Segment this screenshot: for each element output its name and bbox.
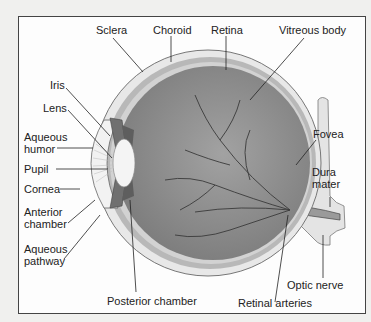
label-fovea: Fovea: [313, 128, 344, 140]
lens: [113, 139, 135, 187]
label-aqueous-pathway-line2: pathway: [24, 255, 65, 267]
label-anterior-chamber-line1: Anterior: [24, 206, 63, 218]
label-cornea: Cornea: [24, 183, 60, 195]
label-sclera: Sclera: [96, 24, 127, 36]
label-posterior-chamber: Posterior chamber: [107, 295, 197, 307]
eye-illustration: [0, 0, 371, 322]
label-lens: Lens: [43, 102, 67, 114]
vitreous-body: [116, 66, 310, 260]
label-anterior-chamber-line2: chamber: [24, 218, 67, 230]
label-optic-nerve: Optic nerve: [287, 279, 343, 291]
label-choroid: Choroid: [153, 24, 192, 36]
label-aqueous-pathway-line1: Aqueous: [24, 243, 67, 255]
label-vitreous-body: Vitreous body: [279, 24, 346, 36]
label-pupil: Pupil: [24, 163, 48, 175]
label-aqueous-humor-line2: humor: [24, 143, 55, 155]
label-dura-mater-line2: mater: [312, 178, 340, 190]
label-retina: Retina: [211, 24, 243, 36]
label-dura-mater-line1: Dura: [312, 166, 336, 178]
label-iris: Iris: [50, 79, 65, 91]
label-retinal-arteries: Retinal arteries: [238, 297, 312, 309]
label-aqueous-humor-line1: Aqueous: [24, 131, 67, 143]
